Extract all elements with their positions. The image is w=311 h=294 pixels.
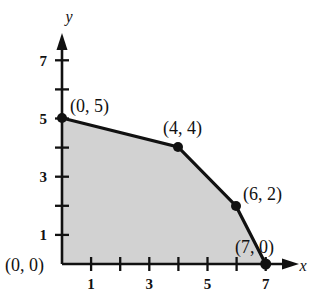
vertex-dot-7-0: [260, 259, 271, 270]
x-tick-label-5: 5: [204, 276, 212, 292]
x-tick-label-3: 3: [146, 276, 154, 292]
y-tick-label-1: 1: [40, 227, 48, 243]
x-axis-arrow-icon: [282, 259, 299, 270]
y-tick-label-3: 3: [40, 169, 48, 185]
vertex-label-6-2: (6, 2): [243, 184, 282, 205]
vertex-dot-6-2: [231, 201, 241, 211]
vertex-dot-4-4: [173, 142, 183, 152]
y-axis-label: y: [63, 8, 73, 26]
y-tick-label-7: 7: [40, 53, 48, 69]
vertex-label-0-0: (0, 0): [5, 255, 44, 276]
y-tick-label-5: 5: [40, 111, 48, 127]
feasible-region-figure: 1 3 5 7 1 3 5 7 y x (0, 0) (0, 5) (4, 4)…: [0, 0, 311, 294]
x-axis-label: x: [298, 257, 306, 274]
vertex-label-7-0: (7, 0): [235, 237, 274, 258]
vertex-label-4-4: (4, 4): [163, 118, 202, 139]
vertex-dot-0-5: [57, 113, 67, 123]
vertex-label-0-5: (0, 5): [70, 96, 109, 117]
x-tick-label-7: 7: [262, 276, 270, 292]
y-axis-arrow-icon: [57, 33, 68, 50]
x-tick-label-1: 1: [87, 276, 95, 292]
coordinate-plot: 1 3 5 7 1 3 5 7 y x (0, 0) (0, 5) (4, 4)…: [0, 0, 311, 294]
